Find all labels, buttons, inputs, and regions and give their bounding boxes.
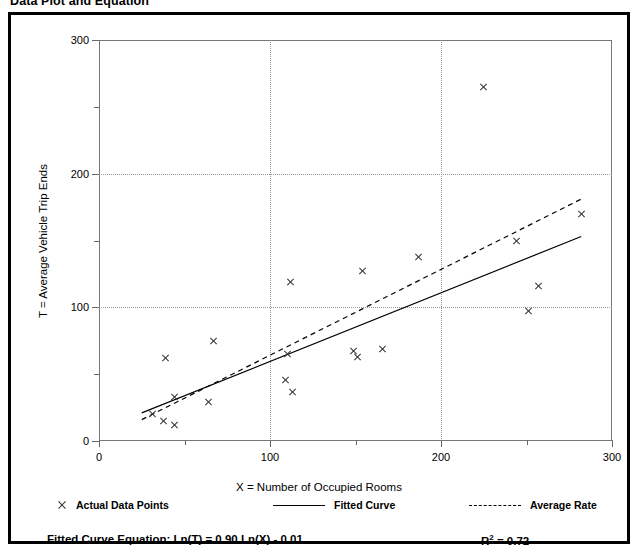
data-point-marker	[281, 375, 290, 384]
solid-line-icon	[273, 505, 325, 506]
data-point-marker	[159, 416, 168, 425]
y-tick-label: 200	[55, 168, 89, 180]
x-tick-label: 0	[96, 451, 102, 463]
axis-tick	[270, 440, 271, 447]
trend-line-svg	[99, 40, 612, 441]
data-point-marker	[577, 209, 586, 218]
data-point-marker	[414, 252, 423, 261]
data-point-marker	[170, 420, 179, 429]
legend-label-average: Average Rate	[530, 499, 597, 511]
data-point-marker	[479, 82, 488, 91]
axis-tick	[92, 40, 99, 41]
axis-tick	[92, 174, 99, 175]
legend-item-actual-data-points: Actual Data Points	[57, 499, 169, 511]
equation-row: Fitted Curve Equation: Ln(T) = 0.90 Ln(X…	[11, 533, 627, 552]
data-point-marker	[288, 387, 297, 396]
fitted-curve-equation: Fitted Curve Equation: Ln(T) = 0.90 Ln(X…	[47, 533, 303, 545]
data-point-marker	[524, 307, 533, 316]
data-point-marker	[161, 354, 170, 363]
dashed-line-icon	[469, 505, 521, 506]
legend-label-fitted: Fitted Curve	[334, 499, 395, 511]
data-point-marker	[283, 350, 292, 359]
page-title: Data Plot and Equation	[10, 0, 149, 8]
y-axis-title: T = Average Vehicle Trip Ends	[37, 164, 49, 318]
chart-figure-frame: T = Average Vehicle Trip Ends X = Number…	[8, 12, 630, 544]
y-tick-label: 300	[55, 34, 89, 46]
x-tick-label: 300	[603, 451, 621, 463]
legend-item-fitted-curve: Fitted Curve	[273, 499, 395, 511]
data-point-marker	[209, 336, 218, 345]
data-point-marker	[204, 398, 213, 407]
data-point-marker	[358, 267, 367, 276]
x-marker-icon	[57, 500, 67, 510]
data-point-marker	[512, 236, 521, 245]
r-squared-value: R2 = 0.72	[481, 533, 529, 547]
r-squared-number: = 0.72	[494, 535, 530, 547]
data-point-marker	[534, 281, 543, 290]
axis-tick	[92, 307, 99, 308]
data-point-marker	[148, 410, 157, 419]
axis-tick	[92, 441, 99, 442]
data-point-marker	[286, 277, 295, 286]
data-point-marker	[378, 344, 387, 353]
average-rate-line	[142, 199, 581, 420]
y-tick-label: 0	[55, 435, 89, 447]
legend-item-average-rate: Average Rate	[469, 499, 597, 511]
x-tick-label: 100	[261, 451, 279, 463]
y-tick-label: 100	[55, 301, 89, 313]
legend-label-actual: Actual Data Points	[76, 499, 169, 511]
x-axis-title: X = Number of Occupied Rooms	[11, 481, 627, 493]
x-tick-label: 200	[432, 451, 450, 463]
chart-legend: Actual Data Points Fitted Curve Average …	[11, 499, 627, 519]
plot-area	[99, 40, 612, 441]
axis-tick	[612, 440, 613, 447]
data-point-marker	[170, 392, 179, 401]
axis-tick	[441, 440, 442, 447]
data-point-marker	[353, 352, 362, 361]
axis-tick	[99, 440, 100, 447]
